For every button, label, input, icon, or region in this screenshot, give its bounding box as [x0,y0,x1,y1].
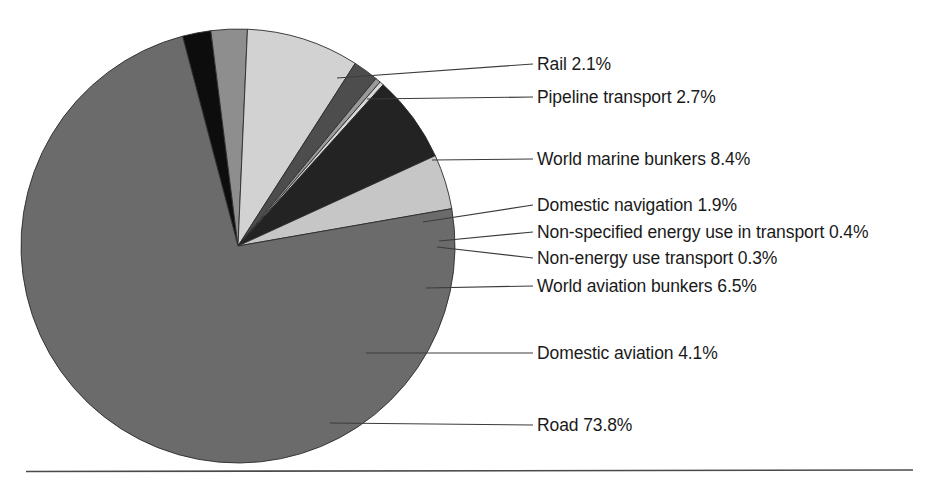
label-road: Road 73.8% [537,415,632,435]
label-nonenergy: Non-energy use transport 0.3% [537,248,777,268]
label-aviation-bunkers: World aviation bunkers 6.5% [537,276,757,296]
label-rail: Rail 2.1% [537,54,611,74]
label-domestic-aviation: Domestic aviation 4.1% [537,343,718,363]
label-pipeline: Pipeline transport 2.7% [537,87,716,107]
chart-canvas: Rail 2.1% Pipeline transport 2.7% World … [0,0,928,484]
pie-chart-figure: Rail 2.1% Pipeline transport 2.7% World … [0,0,928,484]
label-navigation: Domestic navigation 1.9% [537,195,737,215]
leader-line-marine [432,159,533,160]
label-nonspecified: Non-specified energy use in transport 0.… [537,222,868,242]
bottom-divider-rule [26,470,913,472]
pie-slice-group [21,29,455,463]
label-marine: World marine bunkers 8.4% [537,149,750,169]
